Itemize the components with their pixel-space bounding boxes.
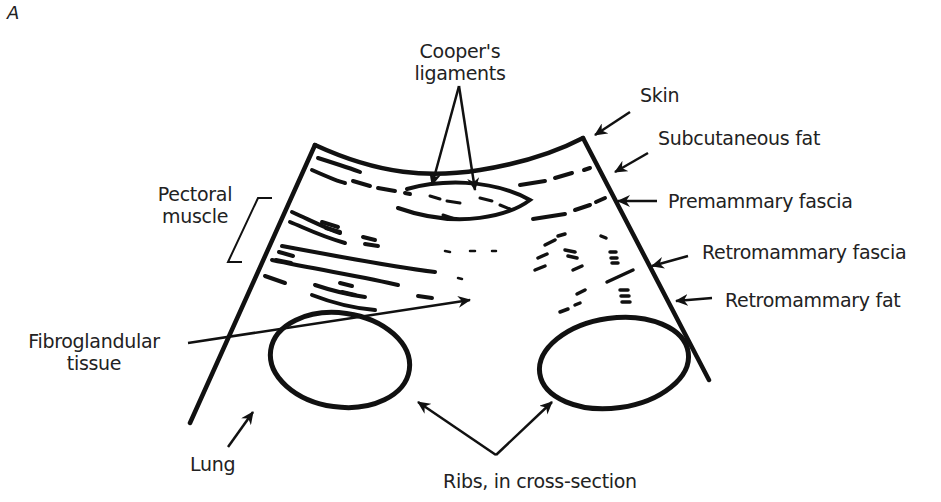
coopers-lobule	[398, 183, 530, 219]
arrow-coopers-1	[432, 86, 459, 185]
label-subcutaneous-fat: Subcutaneous fat	[658, 127, 820, 149]
label-ribs: Ribs, in cross-section	[443, 470, 637, 492]
arrow-rib-left	[418, 402, 496, 455]
label-premammary-fascia: Premammary fascia	[668, 190, 853, 212]
label-retromammary-fat: Retromammary fat	[725, 289, 900, 311]
label-fibroglandular-line2: tissue	[14, 352, 174, 374]
label-fibroglandular-tissue: Fibroglandular tissue	[14, 330, 174, 374]
arrow-lung	[228, 412, 253, 447]
arrow-retromammary-fat	[676, 298, 712, 301]
arrow-skin	[595, 112, 630, 135]
label-coopers-line2: ligaments	[412, 62, 508, 84]
label-lung: Lung	[190, 453, 235, 475]
label-pectoral-line1: Pectoral	[150, 183, 240, 205]
rib-right	[533, 308, 694, 418]
label-fibroglandular-line1: Fibroglandular	[14, 330, 174, 352]
label-pectoral-line2: muscle	[150, 205, 240, 227]
label-coopers-ligaments: Cooper's ligaments	[412, 40, 508, 84]
arrow-fibroglandular	[188, 300, 470, 343]
arrow-rib-right	[496, 402, 552, 455]
glandular-dashes-right	[535, 234, 633, 312]
arrow-retromammary-fascia	[652, 256, 688, 266]
subcutaneous-layers	[312, 158, 605, 219]
label-skin: Skin	[640, 84, 679, 106]
label-coopers-line1: Cooper's	[412, 40, 508, 62]
label-pectoral-muscle: Pectoral muscle	[150, 183, 240, 227]
right-boundary	[583, 138, 709, 380]
label-retromammary-fascia: Retromammary fascia	[702, 241, 906, 263]
fibroglandular-dashes	[445, 251, 496, 279]
pectoral-muscle-striations	[265, 212, 435, 310]
arrow-subcutaneous	[615, 153, 648, 172]
